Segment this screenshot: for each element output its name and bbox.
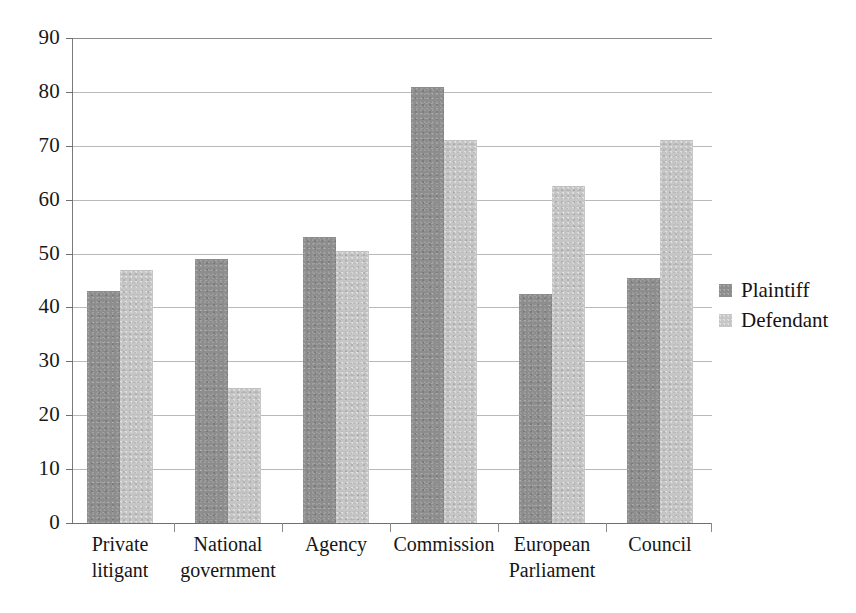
y-tick-mark-0 bbox=[66, 523, 73, 524]
bar-chart: 9080706050403020100 PrivatelitigantNatio… bbox=[0, 0, 856, 613]
bar-group bbox=[519, 38, 585, 523]
y-tick-label-90: 90 bbox=[16, 27, 60, 48]
y-tick-mark-60 bbox=[66, 200, 73, 201]
bar-defendant-council bbox=[660, 140, 693, 523]
x-axis-category-labels: PrivatelitigantNationalgovernmentAgencyC… bbox=[73, 531, 712, 611]
y-tick-mark-70 bbox=[66, 146, 73, 147]
y-tick-label-60: 60 bbox=[16, 189, 60, 210]
y-tick-label-70: 70 bbox=[16, 135, 60, 156]
gridline-50 bbox=[73, 254, 712, 255]
x-label-line: European bbox=[514, 533, 591, 555]
gridline-70 bbox=[73, 146, 712, 147]
gridline-60 bbox=[73, 200, 712, 201]
legend-item-defendant[interactable]: Defendant bbox=[719, 305, 851, 335]
bar-group bbox=[195, 38, 261, 523]
x-label-line: National bbox=[194, 533, 263, 555]
chart-legend: PlaintiffDefendant bbox=[719, 275, 851, 335]
plot-area bbox=[73, 38, 712, 523]
bar-group bbox=[627, 38, 693, 523]
legend-swatch-defendant-icon bbox=[719, 314, 732, 327]
y-tick-label-10: 10 bbox=[16, 458, 60, 479]
bar-plaintiff-commission bbox=[411, 87, 444, 524]
x-label-line: Agency bbox=[305, 533, 367, 555]
legend-label: Defendant bbox=[741, 310, 828, 331]
bar-group bbox=[411, 38, 477, 523]
y-tick-mark-30 bbox=[66, 361, 73, 362]
y-tick-mark-10 bbox=[66, 469, 73, 470]
x-label-line: Commission bbox=[393, 533, 494, 555]
gridline-40 bbox=[73, 307, 712, 308]
x-label-council: Council bbox=[590, 531, 730, 557]
bar-defendant-european-parliament bbox=[552, 186, 585, 523]
gridline-10 bbox=[73, 469, 712, 470]
y-tick-label-0: 0 bbox=[16, 512, 60, 533]
x-label-line: Council bbox=[628, 533, 691, 555]
bar-plaintiff-private-litigant bbox=[87, 291, 120, 523]
y-tick-label-50: 50 bbox=[16, 243, 60, 264]
gridline-80 bbox=[73, 92, 712, 93]
legend-item-plaintiff[interactable]: Plaintiff bbox=[719, 275, 851, 305]
bar-group bbox=[303, 38, 369, 523]
y-tick-label-20: 20 bbox=[16, 404, 60, 425]
gridline-90 bbox=[73, 38, 712, 39]
x-label-line: Parliament bbox=[482, 557, 622, 583]
bar-group bbox=[87, 38, 153, 523]
bar-defendant-commission bbox=[444, 140, 477, 523]
gridline-30 bbox=[73, 361, 712, 362]
gridline-20 bbox=[73, 415, 712, 416]
y-tick-label-40: 40 bbox=[16, 296, 60, 317]
bar-plaintiff-agency bbox=[303, 237, 336, 523]
y-tick-mark-90 bbox=[66, 38, 73, 39]
y-tick-mark-80 bbox=[66, 92, 73, 93]
y-tick-label-80: 80 bbox=[16, 81, 60, 102]
y-axis-tick-labels: 9080706050403020100 bbox=[0, 0, 60, 613]
y-tick-label-30: 30 bbox=[16, 350, 60, 371]
legend-swatch-plaintiff-icon bbox=[719, 284, 732, 297]
y-tick-mark-20 bbox=[66, 415, 73, 416]
bar-defendant-agency bbox=[336, 251, 369, 523]
bar-plaintiff-national-government bbox=[195, 259, 228, 523]
bar-defendant-private-litigant bbox=[120, 270, 153, 523]
x-label-line: government bbox=[158, 557, 298, 583]
x-label-line: Private bbox=[92, 533, 149, 555]
bar-plaintiff-european-parliament bbox=[519, 294, 552, 523]
y-tick-mark-50 bbox=[66, 254, 73, 255]
bar-defendant-national-government bbox=[228, 388, 261, 523]
y-tick-mark-40 bbox=[66, 307, 73, 308]
bar-plaintiff-council bbox=[627, 278, 660, 523]
legend-label: Plaintiff bbox=[741, 280, 809, 301]
